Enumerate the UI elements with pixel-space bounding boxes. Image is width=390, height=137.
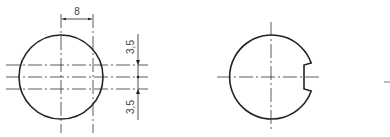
dim-center-dot (137, 76, 140, 79)
dim-3-5-bottom-label: 3,5 (125, 100, 136, 114)
technical-drawing: 8 3,5 3,5 (0, 0, 390, 137)
dim-arrow-bottom (136, 89, 140, 94)
dim-8-label: 8 (74, 6, 80, 17)
dim-3-5-top-label: 3,5 (125, 40, 136, 54)
right-view (217, 22, 320, 132)
left-view: 8 3,5 3,5 (6, 6, 148, 133)
dim-arrow-top (136, 60, 140, 65)
